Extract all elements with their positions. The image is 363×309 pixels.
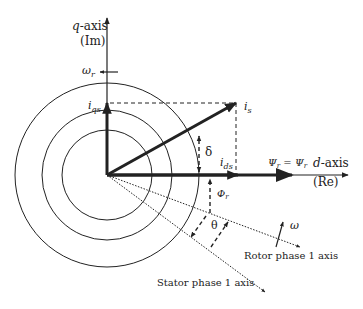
stator-axis-label: Stator phase 1 axis xyxy=(157,277,254,288)
delta-label: δ xyxy=(205,145,212,159)
theta-label: θ xyxy=(211,219,218,232)
i-s-label: is xyxy=(244,100,252,115)
theta-arrow-left xyxy=(191,216,206,237)
omega-r-label: ωr xyxy=(82,64,96,79)
phasor-diagram: q-axis (Im) ωr d-axis (Re) Ψr = Ψr ids i… xyxy=(0,0,363,309)
psi-r-label: Ψr = Ψr xyxy=(268,157,308,170)
q-axis-label: q-axis xyxy=(72,19,108,33)
rotor-axis-label: Rotor phase 1 axis xyxy=(244,250,338,261)
i-ds-label: ids xyxy=(220,156,233,171)
omega-label: ω xyxy=(290,219,299,232)
omega-arrow xyxy=(276,222,283,247)
phi-r-label: Φr xyxy=(217,188,229,201)
stator-phase-axis xyxy=(107,175,265,292)
q-axis-sublabel: (Im) xyxy=(80,34,105,48)
i-qs-label: iqs xyxy=(88,99,101,114)
rotor-phase-axis xyxy=(107,175,300,247)
d-axis-label: d-axis xyxy=(313,156,349,170)
d-axis-sublabel: (Re) xyxy=(313,175,339,189)
